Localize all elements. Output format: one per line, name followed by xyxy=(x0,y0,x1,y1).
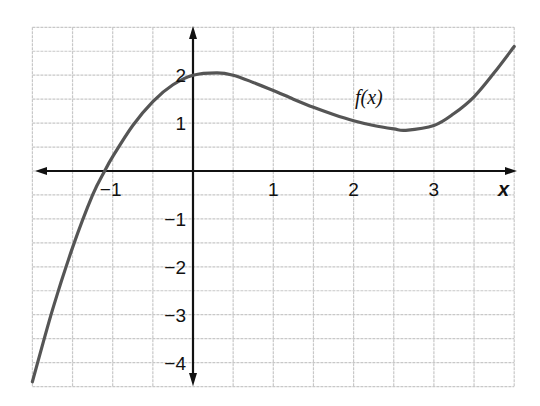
x-axis-right-arrow-icon xyxy=(505,167,517,175)
curve-label: f(x) xyxy=(355,86,383,109)
y-tick-label: −4 xyxy=(164,353,186,374)
y-tick-label: −3 xyxy=(164,305,186,326)
axes xyxy=(35,26,517,386)
y-tick-label: 2 xyxy=(175,65,186,86)
x-tick-label: 2 xyxy=(348,179,359,200)
grid xyxy=(32,27,514,386)
x-tick-label: −1 xyxy=(100,179,122,200)
x-tick-labels: −1123 xyxy=(100,179,439,200)
function-graph: −1123 −4−3−2−112 x f(x) xyxy=(0,0,540,406)
y-tick-label: −2 xyxy=(164,257,186,278)
y-axis-up-arrow-icon xyxy=(189,26,197,39)
y-tick-label: −1 xyxy=(164,209,186,230)
x-tick-label: 3 xyxy=(429,179,440,200)
x-axis-label: x xyxy=(497,178,510,200)
y-tick-label: 1 xyxy=(175,113,186,134)
y-axis-down-arrow-icon xyxy=(189,373,197,386)
x-axis-left-arrow-icon xyxy=(35,167,47,175)
y-tick-labels: −4−3−2−112 xyxy=(164,65,186,373)
x-tick-label: 1 xyxy=(268,179,279,200)
